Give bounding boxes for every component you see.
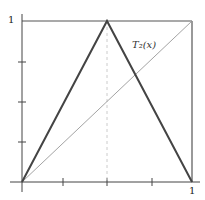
x-tick-label-1: 1 <box>189 186 195 196</box>
chart: 1 1 T₂(x) <box>0 0 205 200</box>
plot-area <box>0 0 205 200</box>
curve-label: T₂(x) <box>132 40 156 50</box>
y-tick-label-1: 1 <box>8 15 14 25</box>
